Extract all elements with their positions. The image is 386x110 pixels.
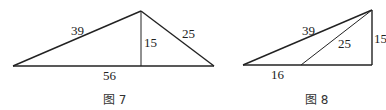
label-39: 39 <box>71 23 84 38</box>
label-15: 15 <box>144 35 157 50</box>
label-25: 25 <box>338 36 351 51</box>
label-39: 39 <box>302 23 315 38</box>
caption-fig7: 图 7 <box>103 93 126 107</box>
label-56: 56 <box>103 68 117 83</box>
label-25: 25 <box>182 26 195 41</box>
side-39 <box>13 11 141 66</box>
figure-7: 39 15 25 56 图 7 <box>13 11 214 107</box>
figure-8: 39 25 15 16 图 8 <box>243 10 386 107</box>
label-16: 16 <box>271 67 285 82</box>
caption-fig8: 图 8 <box>305 93 328 107</box>
label-15: 15 <box>374 31 386 46</box>
geometry-figures: 39 15 25 56 图 7 39 25 15 16 图 8 <box>0 0 386 110</box>
